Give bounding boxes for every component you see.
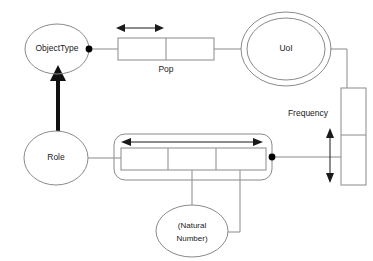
uniqueness-constraint-pop — [116, 24, 164, 32]
entity-uoi-label: UoI — [279, 43, 292, 53]
entity-natural-number[interactable]: (Natural Number) — [156, 205, 228, 257]
subtype-arrow-role-to-objecttype — [50, 65, 66, 131]
uniqueness-constraint-frequency — [326, 128, 334, 183]
mandatory-role-dot-objecttype — [86, 46, 93, 53]
fact-type-frequency[interactable]: Frequency — [288, 88, 366, 185]
entity-natural-number-label-line2: Number) — [176, 234, 207, 243]
orm-diagram: ObjectType Pop UoI — [0, 0, 373, 261]
connector-uoi-to-frequency — [330, 49, 347, 88]
uniqueness-constraint-ternary — [121, 138, 263, 146]
diagram-canvas: ObjectType Pop UoI — [0, 0, 373, 261]
entity-object-type-label: ObjectType — [36, 43, 79, 53]
connector-ternary-to-naturalnumber-right — [228, 170, 240, 232]
fact-type-ternary[interactable] — [114, 134, 275, 180]
entity-role[interactable]: Role — [24, 131, 88, 185]
entity-role-label: Role — [47, 152, 65, 162]
entity-natural-number-label-line1: (Natural — [178, 221, 207, 230]
fact-type-pop-label: Pop — [158, 64, 173, 74]
mandatory-role-dot-ternary — [269, 154, 276, 161]
fact-type-pop[interactable]: Pop — [116, 24, 214, 74]
objectification-border — [114, 134, 272, 180]
entity-uoi[interactable]: UoI — [241, 12, 331, 86]
fact-type-frequency-label: Frequency — [288, 108, 329, 118]
